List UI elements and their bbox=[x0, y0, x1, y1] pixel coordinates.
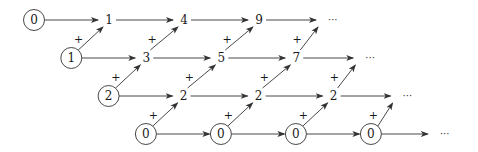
circled-node: 1 bbox=[61, 48, 82, 69]
ellipsis: ··· bbox=[328, 14, 338, 25]
circled-node: 0 bbox=[135, 124, 156, 145]
node-label: 0 bbox=[217, 127, 225, 141]
ellipsis: ··· bbox=[403, 90, 413, 101]
diagonal-arrow bbox=[300, 27, 318, 50]
diagram-canvas: 0149···1+3+5+7+···2+2+2+2+···0+0+0+0+··· bbox=[0, 0, 478, 152]
node-label: 0 bbox=[142, 127, 150, 141]
plus-sign: + bbox=[330, 71, 339, 84]
plus-sign: + bbox=[293, 33, 302, 46]
ellipsis: ··· bbox=[365, 52, 375, 63]
node-label: 0 bbox=[30, 13, 38, 27]
node-label: 2 bbox=[330, 89, 338, 103]
node-label: 0 bbox=[367, 127, 375, 141]
ellipsis: ··· bbox=[440, 128, 450, 139]
plus-sign: + bbox=[111, 71, 120, 84]
node-label: 2 bbox=[180, 89, 188, 103]
plus-sign: + bbox=[149, 109, 158, 122]
node-label: 3 bbox=[142, 51, 150, 65]
value-node: 9 bbox=[255, 13, 263, 27]
plus-sign: + bbox=[74, 33, 83, 46]
plus-sign: + bbox=[223, 33, 232, 46]
plus-sign: + bbox=[224, 109, 233, 122]
value-node: 4 bbox=[180, 13, 188, 27]
circled-node: 2 bbox=[98, 86, 119, 107]
node-label: 1 bbox=[67, 51, 75, 65]
circled-node: 0 bbox=[285, 124, 306, 145]
value-node: 3 bbox=[142, 51, 150, 65]
value-node: 7 bbox=[292, 51, 300, 65]
node-label: 0 bbox=[292, 127, 300, 141]
node-label: 1 bbox=[105, 13, 113, 27]
difference-table-diagram: 0149···1+3+5+7+···2+2+2+2+···0+0+0+0+··· bbox=[0, 0, 478, 152]
node-label: 5 bbox=[217, 51, 225, 65]
plus-sign: + bbox=[148, 33, 157, 46]
node-label: 7 bbox=[292, 51, 300, 65]
node-label: 4 bbox=[180, 13, 188, 27]
plus-sign: + bbox=[185, 71, 194, 84]
node-label: 9 bbox=[255, 13, 263, 27]
plus-sign: + bbox=[369, 109, 378, 122]
value-node: 2 bbox=[255, 89, 263, 103]
diagonal-arrow bbox=[338, 65, 356, 88]
circled-node: 0 bbox=[360, 124, 381, 145]
diagonal-arrow bbox=[378, 103, 393, 126]
value-node: 5 bbox=[217, 51, 225, 65]
circled-node: 0 bbox=[24, 10, 45, 31]
circled-node: 0 bbox=[210, 124, 231, 145]
plus-sign: + bbox=[260, 71, 269, 84]
value-node: 1 bbox=[105, 13, 113, 27]
value-node: 2 bbox=[330, 89, 338, 103]
node-label: 2 bbox=[255, 89, 263, 103]
node-label: 2 bbox=[105, 89, 113, 103]
plus-sign: + bbox=[299, 109, 308, 122]
value-node: 2 bbox=[180, 89, 188, 103]
